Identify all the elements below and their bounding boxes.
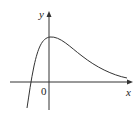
x-axis-arrow-icon bbox=[127, 80, 133, 85]
origin-label: 0 bbox=[41, 86, 47, 97]
function-curve bbox=[27, 37, 127, 108]
plot-area bbox=[0, 0, 137, 114]
y-axis-label: y bbox=[39, 9, 44, 20]
graph: y 0 x bbox=[0, 0, 137, 114]
y-axis-arrow-icon bbox=[47, 11, 52, 17]
x-axis-label: x bbox=[126, 87, 131, 98]
